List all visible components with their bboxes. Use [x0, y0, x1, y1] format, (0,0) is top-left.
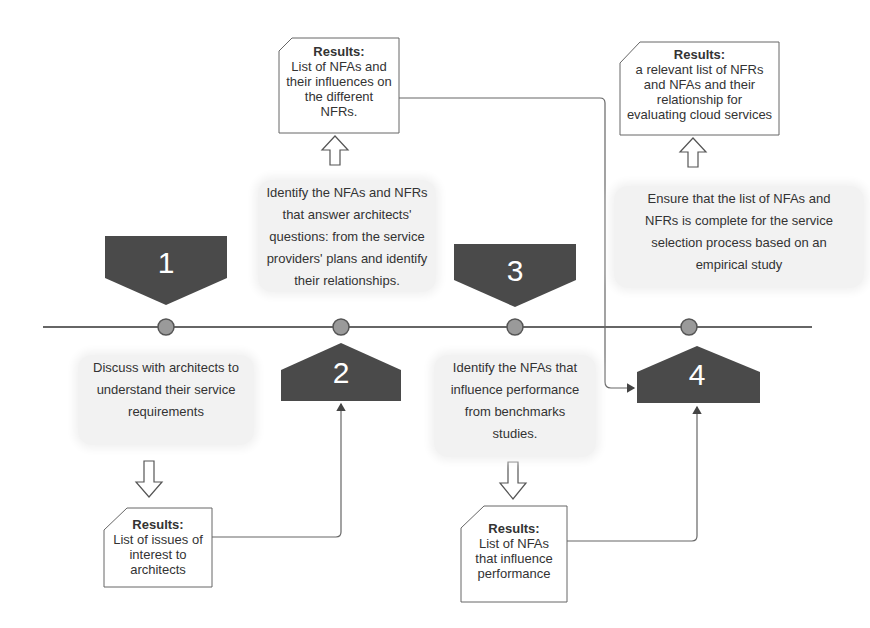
result-line: List of NFAs — [461, 536, 567, 551]
step-1-number: 1 — [146, 246, 186, 280]
desc-line: selection process based on an — [614, 232, 864, 254]
result-title: Results: — [104, 517, 212, 532]
result-line: architects — [104, 562, 212, 577]
result-line: evaluating cloud services — [620, 107, 779, 122]
desc-line: that answer architects' — [258, 204, 436, 226]
desc-line: Identify the NFAs that — [434, 357, 596, 379]
result-line: and NFAs and their — [620, 77, 779, 92]
step-3-number: 3 — [495, 254, 535, 288]
desc-line: NFRs is complete for the service — [614, 210, 864, 232]
result-line: relationship for — [620, 92, 779, 107]
desc-line: empirical study — [614, 254, 864, 276]
down-arrow-3-icon — [500, 462, 526, 499]
result-box-3: Results: List of NFAs that influence per… — [461, 521, 567, 581]
desc-line: questions: from the service — [258, 226, 436, 248]
desc-line: influence performance — [434, 379, 596, 401]
step-2-description: Identify the NFAs and NFRs that answer a… — [258, 180, 436, 292]
desc-line: Identify the NFAs and NFRs — [258, 182, 436, 204]
result-box-4: Results: a relevant list of NFRs and NFA… — [620, 47, 779, 122]
result-line: performance — [461, 566, 567, 581]
desc-line: providers' plans and identify — [258, 248, 436, 270]
timeline-node-2 — [333, 319, 349, 335]
desc-line: studies. — [434, 423, 596, 445]
step-3-description: Identify the NFAs that influence perform… — [434, 355, 596, 457]
result-title: Results: — [279, 44, 399, 59]
step-4-description: Ensure that the list of NFAs and NFRs is… — [614, 186, 864, 288]
result-line: a relevant list of NFRs — [620, 62, 779, 77]
desc-line: their relationships. — [258, 270, 436, 292]
result-box-2: Results: List of NFAs and their influenc… — [279, 44, 399, 119]
result-line: their influences on — [279, 74, 399, 89]
result-line: List of issues of — [104, 532, 212, 547]
result-box-1: Results: List of issues of interest to a… — [104, 517, 212, 577]
result-line: List of NFAs and — [279, 59, 399, 74]
desc-line: understand their service — [78, 379, 254, 401]
timeline-node-4 — [681, 319, 697, 335]
result-line: the different — [279, 89, 399, 104]
desc-line: requirements — [78, 401, 254, 423]
step-2-number: 2 — [321, 356, 361, 390]
result-title: Results: — [461, 521, 567, 536]
desc-line: Ensure that the list of NFAs and — [614, 188, 864, 210]
result-line: NFRs. — [279, 104, 399, 119]
up-arrow-2-icon — [322, 136, 348, 165]
step-1-description: Discuss with architects to understand th… — [78, 355, 254, 445]
timeline-node-3 — [507, 319, 523, 335]
step-4-number: 4 — [677, 358, 717, 392]
up-arrow-4-icon — [680, 138, 706, 167]
timeline-node-1 — [158, 319, 174, 335]
desc-line: Discuss with architects to — [78, 357, 254, 379]
result-title: Results: — [620, 47, 779, 62]
result-line: that influence — [461, 551, 567, 566]
desc-line: from benchmarks — [434, 401, 596, 423]
result-line: interest to — [104, 547, 212, 562]
down-arrow-1-icon — [136, 461, 162, 497]
